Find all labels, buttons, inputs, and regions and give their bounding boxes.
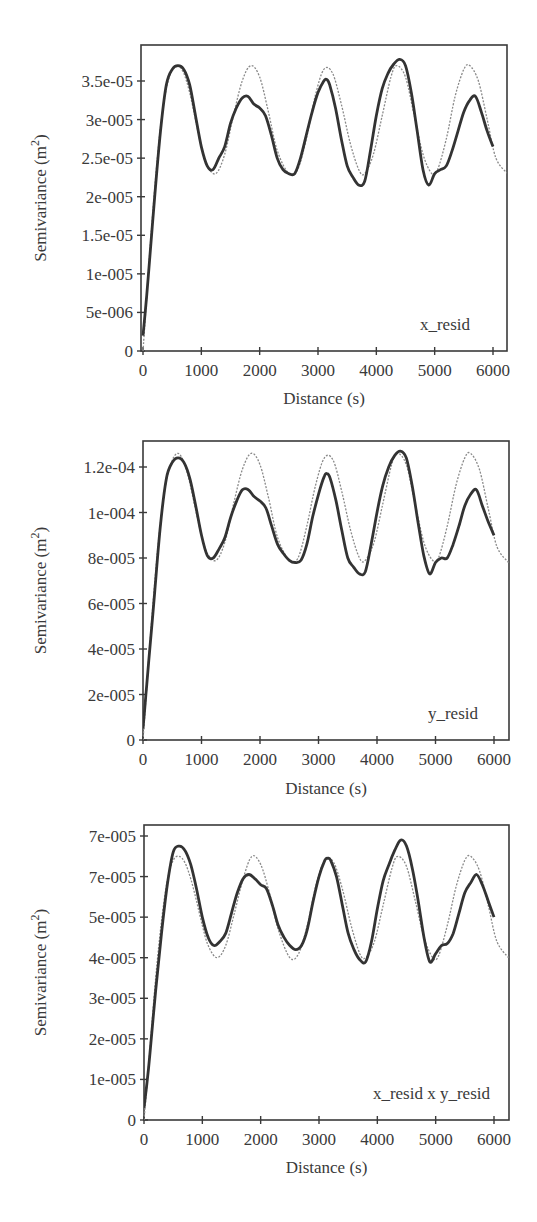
- y-tick-label: 1.2e-04: [84, 458, 136, 477]
- panel-label: x_resid x y_resid: [373, 1084, 491, 1103]
- y-tick-label: 6e-005: [88, 595, 135, 614]
- y-tick-label: 0: [128, 1111, 137, 1130]
- x-tick-label: 6000: [476, 361, 510, 380]
- panel-label: x_resid: [420, 315, 471, 334]
- y-tick-label: 5e-006: [86, 303, 133, 322]
- x-tick-label: 5000: [419, 750, 453, 769]
- y-tick-label: 5e-005: [89, 908, 136, 927]
- x-tick-label: 2000: [243, 361, 277, 380]
- empirical-series-line: [144, 840, 494, 1108]
- y-tick-label: 4e-005: [88, 640, 135, 659]
- y-tick-label: 7e-005: [89, 868, 136, 887]
- x-tick-label: 1000: [184, 361, 218, 380]
- model-series-line: [143, 65, 508, 351]
- x-tick-label: 0: [140, 1130, 149, 1149]
- plot-frame: [143, 441, 509, 740]
- model-series-line: [143, 452, 509, 740]
- y-tick-label: 2.5e-05: [82, 149, 133, 168]
- empirical-series-line: [143, 451, 494, 729]
- x-tick-label: 1000: [185, 750, 219, 769]
- x-axis-title: Distance (s): [283, 389, 365, 408]
- x-tick-label: 4000: [360, 1130, 394, 1149]
- y-tick-label: 2e-005: [88, 686, 135, 705]
- y-tick-label: 7e-005: [89, 827, 136, 846]
- semivariogram-figure: 05e-0061e-0051.5e-052e-0052.5e-053e-0053…: [0, 0, 537, 1222]
- x-tick-label: 4000: [360, 750, 394, 769]
- y-tick-label: 0: [125, 342, 134, 361]
- y-tick-label: 8e-005: [88, 549, 135, 568]
- y-tick-label: 2e-005: [89, 1030, 136, 1049]
- x-axis-title: Distance (s): [285, 779, 367, 798]
- x-tick-label: 0: [139, 750, 148, 769]
- y-axis-title: Semivariance (m2): [28, 134, 50, 261]
- plot-frame: [144, 825, 509, 1120]
- x-tick-label: 2000: [244, 1130, 278, 1149]
- y-tick-label: 3e-005: [86, 111, 133, 130]
- y-tick-label: 3.5e-05: [82, 72, 133, 91]
- y-tick-label: 3e-005: [89, 989, 136, 1008]
- x-tick-label: 6000: [477, 1130, 511, 1149]
- x-tick-label: 5000: [419, 1130, 453, 1149]
- x-tick-label: 2000: [243, 750, 277, 769]
- x-tick-label: 3000: [301, 361, 335, 380]
- panel-label: y_resid: [428, 704, 479, 723]
- y-axis-title: Semivariance (m2): [28, 909, 50, 1036]
- x-tick-label: 3000: [302, 1130, 336, 1149]
- y-tick-label: 0: [127, 731, 136, 750]
- panel-x-resid-x-y-resid: 01e-0052e-0053e-0054e-0055e-0057e-0057e-…: [28, 825, 511, 1177]
- plot-frame: [141, 45, 507, 351]
- panel-x-resid: 05e-0061e-0051.5e-052e-0052.5e-053e-0053…: [28, 45, 510, 408]
- x-axis-title: Distance (s): [286, 1158, 368, 1177]
- x-tick-label: 5000: [418, 361, 452, 380]
- panel-y-resid: 02e-0054e-0056e-0058e-0051e-0041.2e-0401…: [28, 441, 511, 798]
- empirical-series-line: [143, 59, 493, 335]
- x-tick-label: 1000: [185, 1130, 219, 1149]
- y-tick-label: 4e-005: [89, 949, 136, 968]
- y-tick-label: 1e-005: [86, 265, 133, 284]
- x-tick-label: 3000: [302, 750, 336, 769]
- x-tick-label: 4000: [359, 361, 393, 380]
- x-tick-label: 0: [139, 361, 148, 380]
- y-tick-label: 1.5e-05: [82, 226, 133, 245]
- x-tick-label: 6000: [477, 750, 511, 769]
- y-axis-title: Semivariance (m2): [28, 527, 50, 654]
- y-tick-label: 2e-005: [86, 188, 133, 207]
- y-tick-label: 1e-005: [89, 1070, 136, 1089]
- y-tick-label: 1e-004: [88, 504, 136, 523]
